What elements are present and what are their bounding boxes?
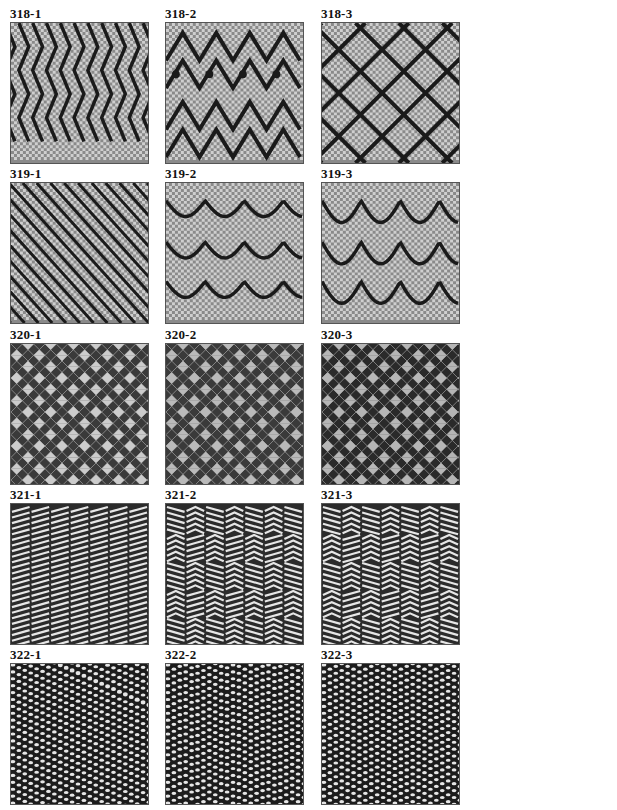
swatch-label: 319-2	[165, 167, 196, 181]
swatch-label: 319-3	[321, 167, 352, 181]
weave-pattern-diagonal-twill	[11, 183, 148, 323]
weave-swatch-320-1	[10, 343, 149, 485]
weave-swatch-322-3	[321, 663, 460, 805]
weave-pattern-geometric-checker	[166, 344, 303, 484]
swatch-label: 321-3	[321, 488, 352, 502]
weave-swatch-321-1	[10, 503, 149, 645]
weave-pattern-dense-twill	[11, 664, 148, 804]
swatch-label: 320-1	[10, 328, 41, 342]
weave-swatch-319-2	[165, 182, 304, 324]
swatch-label: 318-3	[321, 7, 352, 21]
weave-pattern-diamond-lattice	[322, 23, 459, 163]
weave-pattern-block-arrows	[166, 504, 303, 644]
weave-swatch-321-3	[321, 503, 460, 645]
weave-pattern-block-arrows-alt	[322, 504, 459, 644]
swatch-label: 322-3	[321, 648, 352, 662]
swatch-label: 321-1	[10, 488, 41, 502]
swatch-label: 322-2	[165, 648, 196, 662]
weave-swatch-320-3	[321, 343, 460, 485]
swatch-label: 321-2	[165, 488, 196, 502]
swatch-label: 322-1	[10, 648, 41, 662]
weave-swatch-321-2	[165, 503, 304, 645]
weave-swatch-322-1	[10, 663, 149, 805]
weave-pattern-wave-horizontal	[166, 183, 303, 323]
weave-swatch-318-3	[321, 22, 460, 164]
weave-swatch-319-3	[321, 182, 460, 324]
swatch-label: 320-2	[165, 328, 196, 342]
weave-pattern-diamond-wave	[166, 23, 303, 163]
weave-pattern-block-diagonal	[11, 504, 148, 644]
weave-pattern-dense-herringbone-alt	[322, 664, 459, 804]
swatch-label: 319-1	[10, 167, 41, 181]
weave-pattern-zigzag-vertical	[11, 23, 148, 163]
weave-pattern-geometric-lattice	[11, 344, 148, 484]
weave-pattern-wave-horizontal-deep	[322, 183, 459, 323]
swatch-label: 318-2	[165, 7, 196, 21]
swatch-label: 318-1	[10, 7, 41, 21]
swatch-label: 320-3	[321, 328, 352, 342]
weave-pattern-geometric-checker-dark	[322, 344, 459, 484]
weave-swatch-322-2	[165, 663, 304, 805]
weave-swatch-319-1	[10, 182, 149, 324]
weave-swatch-318-2	[165, 22, 304, 164]
weave-pattern-dense-herringbone	[166, 664, 303, 804]
weave-swatch-320-2	[165, 343, 304, 485]
weave-swatch-318-1	[10, 22, 149, 164]
